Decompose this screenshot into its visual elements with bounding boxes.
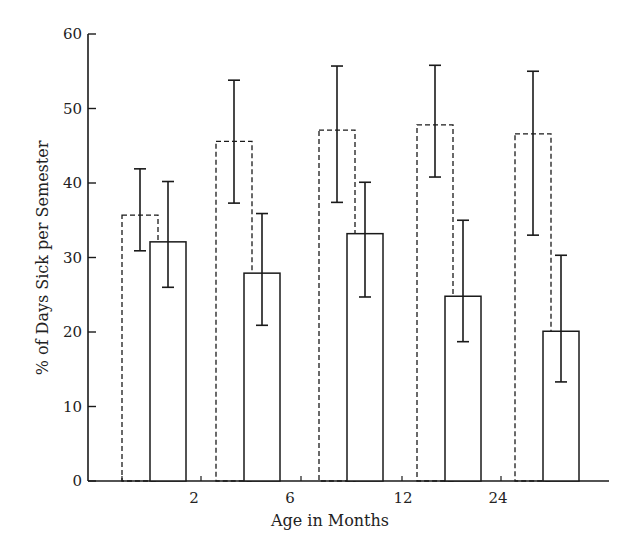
y-tick-label: 20 xyxy=(63,323,82,341)
x-axis-label: Age in Months xyxy=(270,511,389,530)
error-bar xyxy=(134,169,146,251)
y-axis-label: % of Days Sick per Semester xyxy=(33,140,52,375)
solid-bar xyxy=(543,255,579,481)
error-bar xyxy=(429,65,441,177)
error-bar xyxy=(228,80,240,203)
bar-chart: 0102030405060 261224 % of Days Sick per … xyxy=(0,0,640,556)
error-bar xyxy=(331,66,343,202)
y-axis: 0102030405060 xyxy=(63,25,96,490)
solid-bar xyxy=(244,214,280,481)
x-tick-label: 2 xyxy=(189,489,199,507)
x-tick-label: 24 xyxy=(488,489,507,507)
bars xyxy=(122,65,579,481)
y-tick-label: 50 xyxy=(63,100,82,118)
y-tick-label: 60 xyxy=(63,25,82,43)
y-tick-label: 0 xyxy=(72,472,82,490)
y-tick-label: 30 xyxy=(63,249,82,267)
x-tick-label: 6 xyxy=(285,489,295,507)
error-bar xyxy=(527,71,539,235)
y-tick-label: 40 xyxy=(63,174,82,192)
solid-bar xyxy=(445,220,481,481)
solid-bar xyxy=(347,182,383,481)
y-tick-label: 10 xyxy=(63,398,82,416)
solid-bar xyxy=(150,182,186,481)
x-tick-label: 12 xyxy=(393,489,412,507)
